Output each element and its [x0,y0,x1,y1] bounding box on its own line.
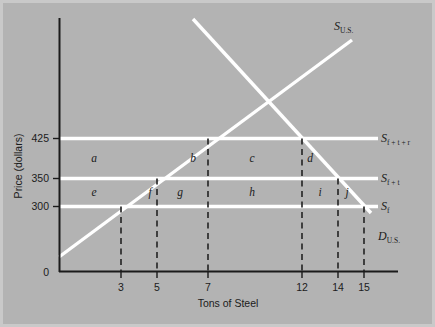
x-axis-title: Tons of Steel [198,297,259,309]
region-label-i: i [318,186,321,198]
steel-tariff-supply-demand-figure: 425 350 300 0 3 5 7 12 14 15 Tons of Ste… [0,0,435,327]
curve-label-sf-t-r: Sf + t + r [381,131,411,147]
demand-curve-us [193,19,371,213]
x-tick-label-14: 14 [332,281,344,293]
region-label-e: e [91,186,96,198]
curve-label-supply-us: SU.S. [334,19,353,35]
supply-curve-us [59,40,352,257]
y-tick-label-350: 350 [31,172,49,184]
curve-label-demand-us-main: D [377,229,387,243]
x-tick-label-12: 12 [296,281,308,293]
region-label-j: j [343,186,348,199]
curve-label-sf-sub: f [387,206,390,215]
region-label-b: b [190,152,196,164]
x-tick-label-7: 7 [205,281,211,293]
x-tick-label-5: 5 [154,281,160,293]
curve-label-demand-us-sub: U.S. [387,236,400,245]
region-label-h: h [249,186,255,198]
curve-label-demand-us: DU.S. [377,229,400,245]
region-label-a: a [91,152,97,164]
curve-label-supply-us-sub: U.S. [340,26,353,35]
curve-label-sf-t-r-sub: f + t + r [387,138,411,147]
chart-canvas: 425 350 300 0 3 5 7 12 14 15 Tons of Ste… [0,0,435,327]
curve-label-sf-t-sub: f + t [387,178,400,187]
origin-label: 0 [43,266,49,278]
y-axis-title: Price (dollars) [12,134,24,199]
region-label-g: g [177,186,183,199]
x-tick-label-15: 15 [358,281,370,293]
x-tick-label-3: 3 [118,281,124,293]
y-tick-label-425: 425 [31,132,49,144]
y-tick-label-300: 300 [31,200,49,212]
curve-label-sf: Sf [381,199,390,215]
curve-label-sf-t: Sf + t [381,171,400,187]
region-label-d: d [307,152,313,164]
region-label-c: c [249,152,254,164]
